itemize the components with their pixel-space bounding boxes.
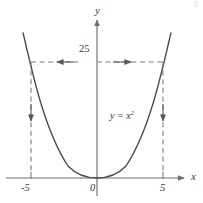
y-axis-label: y	[95, 5, 100, 16]
x-axis-label: x	[191, 171, 196, 182]
x-tick-label-neg5: -5	[21, 183, 30, 194]
origin-label: 0	[90, 183, 95, 194]
curve-equation-label: y = x2	[110, 110, 134, 121]
plot-canvas	[0, 0, 203, 203]
x-tick-label-pos5: 5	[160, 183, 165, 194]
parabola-figure: y x -5 0 5 25 y = x2 5	[0, 0, 203, 203]
equation-exponent: 2	[131, 109, 134, 116]
span-value-label: 25	[79, 44, 90, 55]
page-corner-artifact: 5	[194, 1, 201, 8]
equation-base: y = x	[110, 110, 131, 121]
